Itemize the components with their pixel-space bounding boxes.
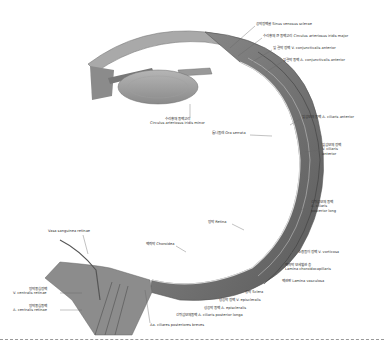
label-circulus-arteriosus-iridis-major: 수리홍체 큰 동맥고리 Circulus arteriosus iridis m…	[263, 34, 348, 38]
label-sinus-venosus-sclerae: 공막정맥굴 Sinus venosus sclerae	[256, 22, 312, 26]
label-v-centralis-retinae: 망막중심정맥 V. centralis retinae	[13, 287, 47, 296]
label-a-ciliaris-anterior: 앞섬모체 동맥 A. ciliaris anterior	[302, 115, 354, 119]
label-v-conjunctivalis-anterior: 앞 결막 정맥 V. conjunctivalis anterior	[273, 46, 336, 50]
label-vasa-sanguinea-retinae: Vasa sanguinea retinae	[48, 229, 90, 233]
label-sclera: 공막 Sclera	[245, 290, 263, 294]
label-a-episcleralis: 상공막 동맥 A. episcleralis	[204, 306, 246, 310]
label-choroidea: 맥락막 Choroidea	[146, 242, 174, 246]
label-v-episcleralis: 상공막 정맥 V. episcleralis	[219, 298, 261, 302]
label-aa-ciliares-posteriores-breves: Aa. ciliares posteriores breves	[150, 323, 204, 327]
label-a-ciliaris-posterior-long: 긴뒤섬모체 동맥 A. ciliaris posterior long	[311, 200, 336, 213]
label-circulus-arteriosus-iridis-minor: 수리홍채 동맥고리 Circulus arteriosus iridis min…	[150, 117, 205, 126]
label-lamina-choroidocapillaris: 맥락막 모세혈관 층 Lamina choroidocapillaris	[285, 263, 331, 272]
label-a-centralis-retinae: 망막중심동맥 A. centralis retinae	[13, 304, 47, 313]
lens-shape	[118, 70, 198, 104]
label-v-ciliaris-anterior: 앞섬모체 정맥 V. ciliaris anterior	[322, 143, 341, 156]
label-v-vorticosa: 소용돌이 정맥 V. vorticosa	[298, 250, 339, 254]
eye-cross-section-diagram	[0, 0, 384, 349]
label-lamina-vasculosa: 맥관판 Lamina vasculosa	[282, 279, 324, 283]
label-a-conjunctivalis-anterior: 앞결막 동맥 A. conjunctivalis anterior	[283, 58, 345, 62]
label-ora-serrata: 톱니둘레 Ora serrata	[212, 131, 246, 135]
label-retina: 망막 Retina	[208, 220, 227, 224]
label-a-ciliaris-posterior-longa: 긴뒤섬모체동맥 A. ciliaris posterior longa	[176, 313, 243, 317]
dashed-divider	[0, 339, 384, 340]
